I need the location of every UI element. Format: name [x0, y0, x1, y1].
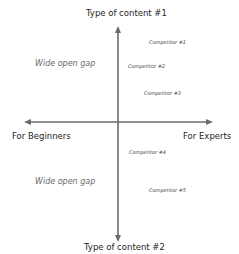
gap-label-top-left: Wide open gap — [35, 59, 95, 68]
competitor-3: Competitor #3 — [144, 90, 181, 96]
axis-label-top: Type of content #1 — [86, 8, 167, 18]
competitor-1: Competitor #1 — [149, 39, 186, 45]
axis-label-left: For Beginners — [12, 131, 71, 141]
axis-label-bottom: Type of content #2 — [84, 242, 165, 252]
gap-label-bottom-left: Wide open gap — [35, 177, 95, 186]
axis-label-right: For Experts — [183, 131, 231, 141]
competitor-5: Competitor #5 — [149, 187, 186, 193]
arrow-down-icon — [115, 235, 121, 242]
axes-graphic — [0, 0, 239, 254]
competitor-2: Competitor #2 — [128, 63, 165, 69]
arrow-left-icon — [24, 119, 31, 125]
arrow-up-icon — [115, 26, 121, 33]
competitor-4: Competitor #4 — [129, 149, 166, 155]
arrow-right-icon — [206, 119, 213, 125]
